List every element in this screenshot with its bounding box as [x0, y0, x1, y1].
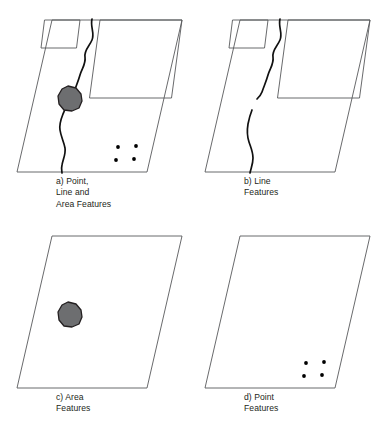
point-feature-dot — [304, 361, 308, 365]
caption-line: d) Point — [244, 392, 374, 403]
caption-line: Features — [56, 403, 186, 414]
map-outline-shape — [205, 236, 370, 388]
panel-d-caption: d) Point Features — [244, 392, 374, 415]
caption-line: Features — [244, 403, 374, 414]
map-outline-shape — [17, 236, 182, 388]
caption-line: Line and — [56, 187, 186, 198]
panel-b-caption: b) Line Features — [244, 176, 374, 199]
point-feature-dot — [134, 144, 138, 148]
panel-c-caption: c) Area Features — [56, 392, 186, 415]
caption-line: Area Features — [56, 199, 186, 210]
point-feature-dot — [302, 374, 306, 378]
caption-line: a) Point, — [56, 176, 186, 187]
point-feature-dot — [114, 158, 118, 162]
feature-layers-figure: a) Point, Line and Area Features b) Line… — [0, 0, 375, 433]
point-feature-dot — [322, 360, 326, 364]
panel-a-caption: a) Point, Line and Area Features — [56, 176, 186, 210]
point-feature-dot — [116, 145, 120, 149]
panel-point-line-area: a) Point, Line and Area Features — [0, 0, 187, 216]
caption-line: c) Area — [56, 392, 186, 403]
panel-point-features: d) Point Features — [188, 216, 375, 432]
point-feature-dot — [132, 157, 136, 161]
panel-area-features: c) Area Features — [0, 216, 187, 432]
caption-line: Features — [244, 187, 374, 198]
caption-line: b) Line — [244, 176, 374, 187]
panel-line-features: b) Line Features — [188, 0, 375, 216]
point-feature-dot — [320, 373, 324, 377]
